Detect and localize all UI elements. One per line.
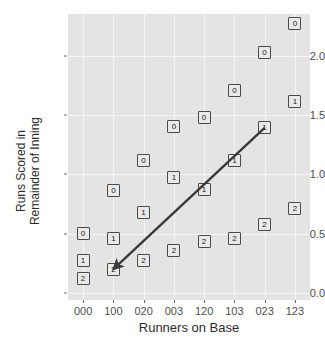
y-tick-mark-1.0: [64, 174, 67, 175]
data-point: 0: [77, 227, 90, 240]
y-axis-title-line-1: Runs Scored in: [14, 81, 28, 261]
scatter-plot-figure: 000000001111111122222222 0.00.51.01.52.0…: [0, 0, 325, 343]
data-point: 0: [288, 17, 301, 30]
data-point: 1: [167, 171, 180, 184]
x-tick-mark-003: [174, 300, 175, 303]
y-tick-label-1.0: 1.0: [291, 168, 325, 180]
y-axis-title: Runs Scored in Remainder of Inning: [14, 81, 42, 261]
data-point: 1: [137, 206, 150, 219]
y-tick-label-0.0: 0.0: [291, 287, 325, 299]
x-tick-mark-000: [83, 300, 84, 303]
data-point: 2: [288, 202, 301, 215]
gridline-vertical-100: [113, 14, 114, 300]
data-point: 1: [77, 254, 90, 267]
data-point: 2: [167, 244, 180, 257]
data-point: 1: [198, 183, 211, 196]
y-tick-label-2.0: 2.0: [291, 50, 325, 62]
x-tick-mark-023: [265, 300, 266, 303]
data-point: 0: [228, 84, 241, 97]
annotation-arrow: [68, 14, 310, 300]
x-tick-mark-100: [113, 300, 114, 303]
data-point: 2: [198, 235, 211, 248]
data-point: 0: [198, 111, 211, 124]
gridline-horizontal-2: [68, 56, 310, 57]
data-point: 1: [288, 95, 301, 108]
x-tick-label-123: 123: [275, 305, 315, 317]
x-axis-title: Runners on Base: [68, 320, 310, 335]
data-point: 0: [137, 154, 150, 167]
x-tick-mark-123: [295, 300, 296, 303]
y-axis-title-line-2: Remainder of Inning: [28, 81, 42, 261]
data-point: 1: [107, 232, 120, 245]
plot-panel: 000000001111111122222222: [68, 14, 310, 300]
gridline-vertical-003: [174, 14, 175, 300]
y-tick-mark-2.0: [64, 55, 67, 56]
y-tick-mark-0.0: [64, 292, 67, 293]
y-tick-label-1.5: 1.5: [291, 109, 325, 121]
data-point: 2: [228, 232, 241, 245]
x-tick-mark-120: [204, 300, 205, 303]
y-tick-mark-1.5: [64, 114, 67, 115]
gridline-vertical-120: [204, 14, 205, 300]
x-tick-mark-103: [234, 300, 235, 303]
data-point: 2: [107, 263, 120, 276]
gridline-horizontal-1: [68, 174, 310, 175]
data-point: 1: [258, 121, 271, 134]
data-point: 0: [107, 184, 120, 197]
data-point: 2: [137, 254, 150, 267]
data-point: 0: [167, 120, 180, 133]
gridline-horizontal-0: [68, 293, 310, 294]
x-tick-mark-020: [144, 300, 145, 303]
data-point: 2: [258, 218, 271, 231]
gridline-horizontal-1.5: [68, 115, 310, 116]
data-point: 1: [228, 154, 241, 167]
data-point: 0: [258, 46, 271, 59]
gridline-horizontal-0.5: [68, 234, 310, 235]
y-tick-label-0.5: 0.5: [291, 228, 325, 240]
data-point: 2: [77, 272, 90, 285]
y-tick-mark-0.5: [64, 233, 67, 234]
